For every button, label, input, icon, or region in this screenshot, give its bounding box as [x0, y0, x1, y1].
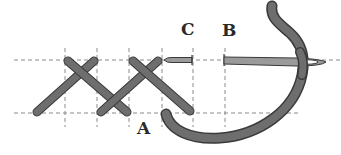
- completed-stitches: [37, 61, 190, 112]
- needle: [164, 52, 326, 75]
- stitch-diagram: C B A: [0, 0, 341, 155]
- point-label-a: A: [137, 120, 150, 137]
- point-label-b: B: [222, 22, 236, 39]
- point-label-c: C: [181, 21, 195, 38]
- stitch-diagram-svg: [0, 0, 341, 155]
